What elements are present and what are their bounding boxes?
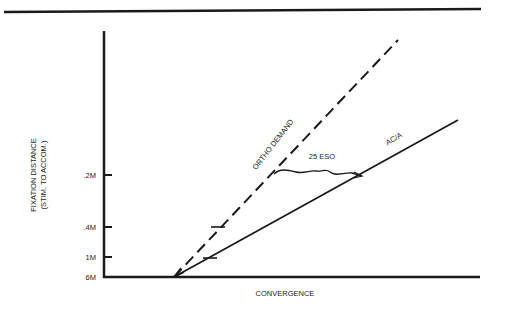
tick-label-1m: 1M — [86, 253, 96, 262]
tick-label-6m: 6M — [86, 273, 96, 282]
tick-label-04m: .4M — [83, 223, 96, 232]
ortho-demand-label: ORTHO DEMAND — [251, 117, 296, 171]
ortho-demand-line — [174, 40, 398, 277]
eso-label: 25 ESO — [309, 152, 335, 161]
tick-label-02m: .2M — [83, 171, 96, 180]
top-rule — [4, 9, 481, 12]
chart: .2M .4M 1M 6M FIXATION DISTANCE (STIM. T… — [0, 0, 507, 317]
eso-brace — [274, 170, 362, 176]
aca-label: AC/A — [384, 131, 404, 148]
x-axis-label: CONVERGENCE — [256, 289, 315, 298]
aca-line — [174, 120, 458, 277]
y-axis-sublabel: (STIM. TO ACCOM.) — [39, 140, 48, 209]
y-axis-label: FIXATION DISTANCE — [29, 138, 38, 211]
